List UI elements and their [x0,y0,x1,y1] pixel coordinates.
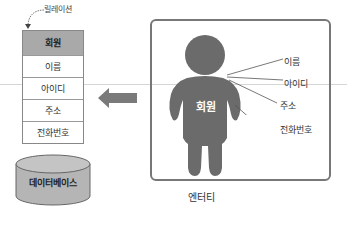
figure-label: 회원 [188,98,224,114]
attribute-address: 주소 [280,99,296,112]
entity-label: 엔터티 [188,189,215,204]
table-row: 주소 [23,99,83,121]
table-row: 전화번호 [23,121,83,143]
table-row: 이름 [23,55,83,77]
attribute-id: 아이디 [284,77,308,90]
arrow-left-icon [97,87,139,109]
attribute-name: 이름 [284,55,300,68]
attribute-phone: 전화번호 [280,123,312,136]
relation-table: 회원 이름 아이디 주소 전화번호 [22,30,84,144]
table-row: 아이디 [23,77,83,99]
table-header: 회원 [23,31,83,55]
database-label: 데이터베이스 [16,176,89,189]
